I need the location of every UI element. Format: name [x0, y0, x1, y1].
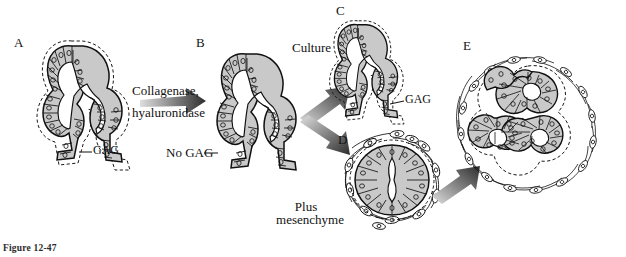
panel-letter-a: A — [14, 36, 23, 51]
panel-b-illustration — [204, 54, 296, 170]
panel-letter-b: B — [196, 36, 205, 51]
plus-mesenchyme-line2: mesenchyme — [270, 213, 350, 228]
gag-label-a: GAG — [93, 144, 119, 157]
panel-c-illustration — [330, 21, 404, 124]
culture-label: Culture — [292, 41, 331, 56]
panel-letter-e: E — [463, 39, 471, 54]
no-gag-label: No GAG — [166, 146, 213, 161]
panel-d-illustration — [343, 130, 441, 230]
panel-letter-d: D — [338, 133, 347, 148]
gag-leader-c — [390, 101, 404, 104]
figure-canvas: A B C D E GAG GAG No GAG Collagenase, hy… — [0, 0, 626, 257]
figure-caption: Figure 12-47 — [3, 243, 57, 254]
gag-label-c: GAG — [405, 93, 431, 106]
panel-letter-c: C — [336, 4, 345, 19]
enzyme-label-line1: Collagenase, — [132, 84, 199, 99]
enzyme-label-line2: hyaluronidase — [132, 106, 205, 121]
